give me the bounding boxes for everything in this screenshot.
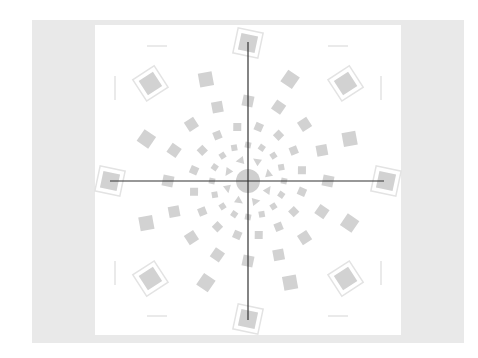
square-marker [168, 205, 181, 218]
square-marker [340, 213, 359, 232]
square-marker [272, 249, 285, 262]
square-marker [184, 230, 199, 245]
square-marker [278, 164, 285, 171]
square-marker [198, 71, 214, 87]
square-marker [211, 101, 224, 114]
triangle-marker [252, 197, 261, 206]
square-marker [230, 210, 238, 218]
square-marker [289, 145, 299, 155]
square-marker [139, 72, 163, 96]
square-marker [280, 70, 299, 89]
triangle-marker [263, 184, 274, 195]
triangle-marker [264, 168, 273, 177]
square-marker [197, 206, 207, 216]
square-marker [212, 221, 223, 232]
triangle-marker [223, 185, 232, 194]
square-marker [316, 144, 329, 157]
square-marker [197, 145, 208, 156]
square-marker [273, 130, 284, 141]
square-marker [184, 117, 199, 132]
square-marker [196, 273, 215, 292]
square-marker [334, 72, 358, 96]
square-marker [210, 247, 225, 262]
square-marker [297, 117, 312, 132]
square-marker [232, 230, 243, 241]
square-marker [269, 202, 277, 210]
square-marker [297, 186, 308, 197]
square-marker [255, 231, 263, 239]
square-marker [288, 206, 299, 217]
square-marker [137, 129, 156, 148]
triangle-marker [235, 156, 244, 165]
stimulus-pattern [0, 0, 478, 358]
triangle-marker [234, 196, 245, 207]
triangle-marker [222, 167, 233, 178]
square-marker [211, 163, 219, 171]
square-marker [271, 99, 286, 114]
square-marker [138, 215, 154, 231]
triangle-marker [251, 155, 262, 166]
square-marker [334, 267, 358, 291]
square-marker [258, 144, 266, 152]
square-marker [231, 144, 238, 151]
square-marker [189, 165, 200, 176]
square-marker [341, 131, 357, 147]
square-marker [139, 267, 163, 291]
square-marker [166, 143, 181, 158]
square-marker [218, 151, 226, 159]
square-marker [218, 202, 226, 210]
square-marker [212, 130, 222, 140]
square-marker [253, 122, 264, 133]
square-marker [277, 191, 285, 199]
square-marker [269, 151, 277, 159]
square-marker [190, 188, 198, 196]
square-marker [258, 211, 265, 218]
square-marker [233, 123, 241, 131]
square-marker [297, 230, 312, 245]
square-marker [314, 204, 329, 219]
square-marker [273, 222, 283, 232]
square-marker [211, 191, 218, 198]
square-marker [298, 166, 306, 174]
square-marker [282, 274, 298, 290]
